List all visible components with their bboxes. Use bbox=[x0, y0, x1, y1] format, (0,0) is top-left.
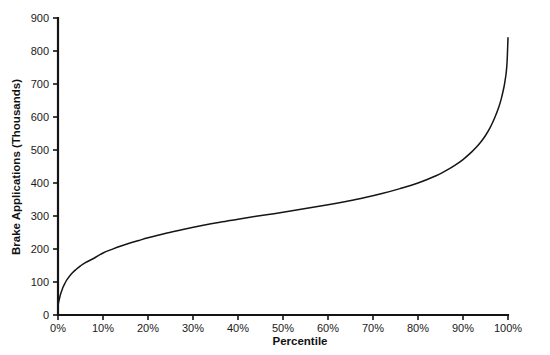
y-tick-label: 200 bbox=[31, 243, 49, 255]
x-tick-label: 10% bbox=[92, 322, 114, 334]
chart-container: 0100200300400500600700800900 0%10%20%30%… bbox=[0, 0, 550, 355]
x-tick-label: 90% bbox=[452, 322, 474, 334]
x-tick-label: 0% bbox=[50, 322, 66, 334]
y-tick-label: 700 bbox=[31, 78, 49, 90]
line-chart: 0100200300400500600700800900 0%10%20%30%… bbox=[0, 0, 550, 355]
y-tick-label: 0 bbox=[43, 309, 49, 321]
y-tick-label: 600 bbox=[31, 111, 49, 123]
y-tick-label: 800 bbox=[31, 45, 49, 57]
chart-background bbox=[0, 0, 550, 355]
y-tick-label: 100 bbox=[31, 276, 49, 288]
y-tick-label: 900 bbox=[31, 12, 49, 24]
x-tick-label: 30% bbox=[182, 322, 204, 334]
x-tick-label: 70% bbox=[362, 322, 384, 334]
y-tick-label: 500 bbox=[31, 144, 49, 156]
y-axis-title: Brake Applications (Thousands) bbox=[10, 79, 22, 255]
x-tick-label: 60% bbox=[317, 322, 339, 334]
x-tick-label: 40% bbox=[227, 322, 249, 334]
x-tick-label: 80% bbox=[407, 322, 429, 334]
y-tick-label: 300 bbox=[31, 210, 49, 222]
y-tick-label: 400 bbox=[31, 177, 49, 189]
x-axis-title: Percentile bbox=[273, 335, 328, 347]
x-tick-label: 20% bbox=[137, 322, 159, 334]
x-tick-label: 100% bbox=[494, 322, 522, 334]
x-tick-label: 50% bbox=[272, 322, 294, 334]
